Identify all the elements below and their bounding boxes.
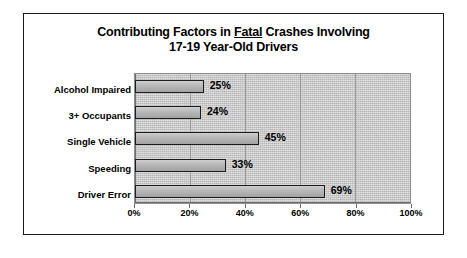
bar-row: 33% (135, 153, 410, 179)
bar-single-vehicle[interactable] (135, 132, 259, 145)
category-axis-labels: Alcohol Impaired 3+ Occupants Single Veh… (28, 73, 131, 204)
bar-speeding[interactable] (135, 159, 226, 172)
bar-value-single-vehicle: 45% (265, 130, 286, 144)
bar-row: 25% (135, 74, 410, 100)
chart-title: Contributing Factors in Fatal Crashes In… (24, 25, 443, 55)
chart-title-part-pre: Contributing Factors in (97, 25, 234, 39)
category-label-driver-error: Driver Error (31, 189, 131, 201)
x-tick-label-80: 80% (347, 208, 365, 218)
bar-value-driver-error: 69% (331, 183, 352, 197)
x-tick-label-60: 60% (291, 208, 309, 218)
category-label-single-vehicle: Single Vehicle (31, 136, 131, 148)
chart-title-emphasis-fatal: Fatal (234, 25, 262, 39)
category-label-alcohol-impaired: Alcohol Impaired (31, 84, 131, 96)
bar-row: 69% (135, 179, 410, 205)
x-tick-label-20: 20% (180, 208, 198, 218)
bar-value-alcohol-impaired: 25% (210, 78, 231, 92)
x-tick-label-0: 0% (127, 208, 140, 218)
bar-3-plus-occupants[interactable] (135, 106, 201, 119)
category-label-3-plus-occupants: 3+ Occupants (31, 110, 131, 122)
plot-area: 25% 24% 45% 33% 69% (134, 73, 411, 204)
chart-title-line-2: 17-19 Year-Old Drivers (24, 40, 443, 55)
bar-value-3-plus-occupants: 24% (207, 104, 228, 118)
category-label-speeding: Speeding (31, 163, 131, 175)
x-tick-label-40: 40% (236, 208, 254, 218)
chart-title-line-1: Contributing Factors in Fatal Crashes In… (24, 25, 443, 40)
bar-row: 24% (135, 100, 410, 126)
bar-row: 45% (135, 126, 410, 152)
bar-value-speeding: 33% (232, 157, 253, 171)
x-tick-label-100: 100% (399, 208, 422, 218)
chart-frame: Contributing Factors in Fatal Crashes In… (23, 13, 444, 235)
chart-screenshot: Contributing Factors in Fatal Crashes In… (0, 0, 467, 258)
bar-driver-error[interactable] (135, 185, 325, 198)
chart-title-part-post: Crashes Involving (262, 25, 370, 39)
bar-alcohol-impaired[interactable] (135, 80, 204, 93)
